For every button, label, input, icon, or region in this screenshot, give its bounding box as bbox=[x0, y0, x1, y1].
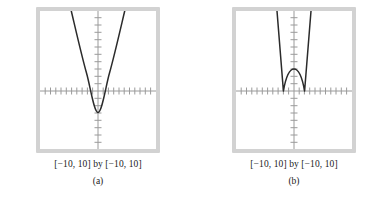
range-caption-a: [−10, 10] by [−10, 10] bbox=[54, 159, 141, 169]
graph-panel-b: [−10, 10] by [−10, 10] (b) bbox=[196, 0, 392, 198]
sub-caption-b: (b) bbox=[288, 176, 299, 186]
calculator-screen-wrap-b bbox=[232, 7, 356, 153]
calculator-screen-wrap-a bbox=[36, 7, 160, 153]
graph-svg-a bbox=[40, 11, 156, 149]
sub-caption-a: (a) bbox=[93, 176, 104, 186]
range-caption-b: [−10, 10] by [−10, 10] bbox=[250, 159, 337, 169]
graph-svg-b bbox=[236, 11, 352, 149]
calculator-screen-b bbox=[232, 7, 356, 153]
figure-container: [−10, 10] by [−10, 10] (a) bbox=[0, 0, 392, 198]
graph-panel-a: [−10, 10] by [−10, 10] (a) bbox=[0, 0, 196, 198]
calculator-screen-a bbox=[36, 7, 160, 153]
